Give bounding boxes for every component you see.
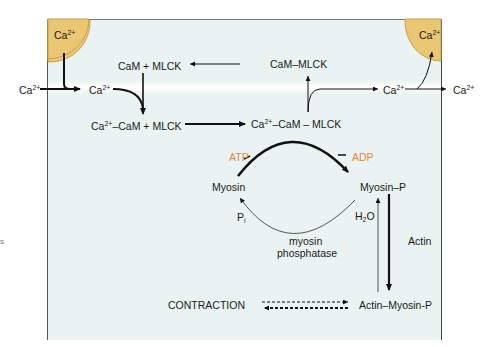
ca-outside-left-label: Ca2+: [19, 84, 40, 96]
cam-mlck-complex-label: CaM–MLCK: [270, 59, 327, 70]
ca-inside-left-label: Ca2+: [89, 84, 110, 96]
sr-store-left-label: Ca2+: [54, 29, 75, 41]
sr-store-right-label: Ca2+: [419, 29, 440, 41]
atp-label: ATP: [229, 152, 249, 163]
ca-cam-plus-mlck-label: Ca2+–CaM + MLCK: [91, 120, 182, 132]
contraction-label: CONTRACTION: [168, 300, 245, 311]
actin-myosin-p-label: Actin–Myosin-P: [359, 300, 432, 311]
diagram-arrows: [0, 0, 496, 347]
cam-mlck-label: CaM + MLCK: [118, 61, 181, 72]
ca-outside-right-label: Ca2+: [453, 84, 474, 96]
h2o-label: H2O: [355, 211, 375, 223]
ca-cam-mlck-label: Ca2+–CaM – MLCK: [251, 118, 341, 130]
myosin-p-label: Myosin–P: [360, 182, 406, 193]
myosin-phosphatase-label-line1: myosin: [289, 236, 322, 247]
edge-text-fragment: s: [0, 238, 4, 246]
myosin-phosphatase-label-line2: phosphatase: [277, 248, 337, 259]
adp-label: ADP: [352, 152, 374, 163]
ca-inside-right-label: Ca2+: [383, 84, 404, 96]
myosin-label: Myosin: [212, 182, 245, 193]
pi-label: Pi: [237, 212, 246, 224]
actin-label: Actin: [408, 236, 431, 247]
